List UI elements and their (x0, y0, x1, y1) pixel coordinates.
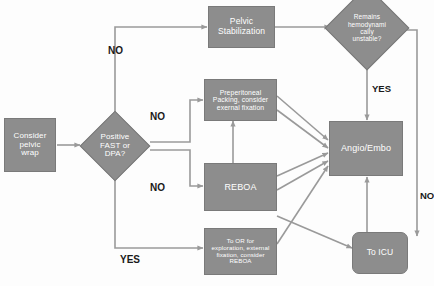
edge-label-yes-to-angio: YES (372, 83, 391, 94)
node-reboa[interactable]: REBOA (204, 163, 277, 211)
edge-packing-to-angio (277, 96, 328, 140)
node-positive-fast-or-dpa[interactable]: Positive FAST or DPA? (90, 121, 140, 171)
node-to-or-label: To OR for exploration, external fixation… (205, 238, 276, 266)
edge-label-no-to-stabilization: NO (108, 45, 123, 56)
node-to-icu-label: To ICU (353, 248, 407, 258)
node-angio-embo[interactable]: Angio/Embo (329, 121, 403, 176)
edge-label-no-to-icu: NO (420, 190, 434, 201)
node-pelvic-stabilization-label: Pelvic Stabilization (209, 17, 274, 36)
node-preperitoneal-packing[interactable]: Preperitoneal Packing, consider exernal … (204, 79, 277, 121)
node-remains-hemodynamically-unstable[interactable]: Remains hemodynami cally unstable? (337, 0, 397, 58)
edge-reboa-to-angio (277, 153, 328, 176)
node-angio-embo-label: Angio/Embo (330, 143, 402, 153)
flowchart-canvas: Consider pelvic wrap Positive FAST or DP… (0, 0, 434, 286)
edge-label-no-to-reboa: NO (150, 182, 165, 193)
edge-decision-to-reboa (150, 150, 203, 186)
node-consider-pelvic-wrap[interactable]: Consider pelvic wrap (4, 118, 56, 172)
node-positive-fast-or-dpa-label: Positive FAST or DPA? (94, 133, 137, 160)
edge-reboa-to-angio-2 (277, 161, 328, 190)
edge-label-yes-to-or: YES (120, 254, 140, 265)
node-pelvic-stabilization[interactable]: Pelvic Stabilization (208, 6, 275, 48)
edge-label-no-to-packing: NO (150, 111, 165, 122)
node-consider-pelvic-wrap-label: Consider pelvic wrap (5, 132, 55, 159)
node-to-icu[interactable]: To ICU (352, 232, 408, 274)
edge-decision-to-stabilization (115, 27, 207, 113)
node-preperitoneal-packing-label: Preperitoneal Packing, consider exernal … (205, 89, 276, 112)
node-reboa-label: REBOA (205, 182, 276, 192)
edge-or-to-angio (277, 166, 328, 244)
edge-angio-to-icu (277, 216, 352, 248)
node-to-or[interactable]: To OR for exploration, external fixation… (204, 228, 277, 275)
node-remains-hemodynamically-unstable-label: Remains hemodynami cally unstable? (341, 13, 393, 42)
edge-packing-to-angio-2 (277, 110, 328, 148)
